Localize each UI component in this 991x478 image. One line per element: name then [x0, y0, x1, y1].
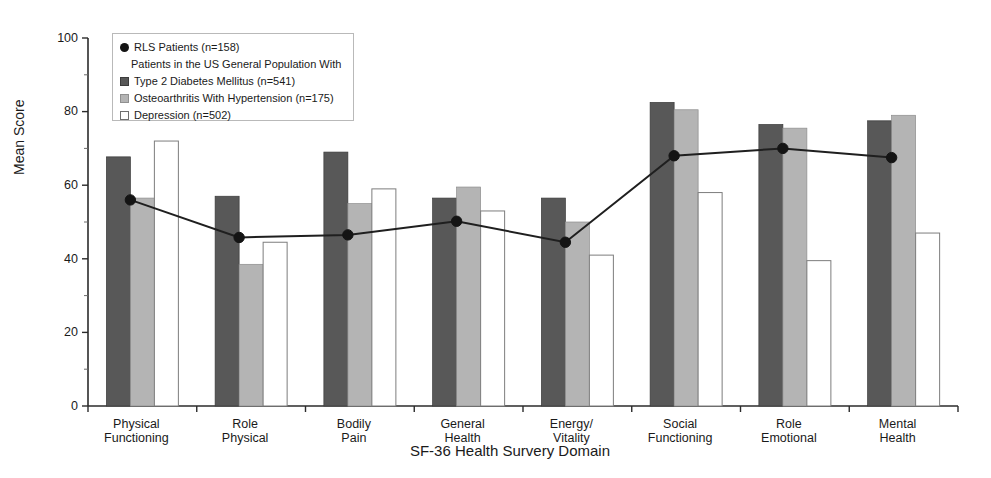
bar-osteoarthritis [565, 222, 589, 406]
bar-diabetes [650, 102, 674, 406]
legend-label: Type 2 Diabetes Mellitus (n=541) [134, 75, 295, 87]
legend-item: Type 2 Diabetes Mellitus (n=541) [120, 73, 347, 89]
legend-item: RLS Patients (n=158) [120, 39, 347, 55]
x-tick-label: Emotional [761, 431, 817, 445]
bar-diabetes [541, 198, 565, 406]
legend-label: Depression (n=502) [134, 109, 231, 121]
x-tick-label: Energy/ [550, 417, 594, 431]
bar-diabetes [433, 198, 457, 406]
bar-diabetes [106, 157, 130, 406]
legend-swatch-dot-icon [120, 43, 129, 52]
x-tick-label: Physical [113, 417, 160, 431]
bar-depression [481, 211, 505, 406]
y-axis: 020406080100 [57, 31, 88, 413]
y-tick-label: 60 [64, 178, 78, 192]
bar-depression [589, 255, 613, 406]
legend-label: Patients in the US General Population Wi… [129, 58, 341, 70]
y-tick-label: 20 [64, 325, 78, 339]
x-tick-label: Functioning [648, 431, 713, 445]
bar-diabetes [759, 124, 783, 406]
rls-data-point [451, 216, 461, 226]
x-tick-labels: PhysicalFunctioningRolePhysicalBodilyPai… [104, 417, 916, 445]
x-tick-label: Physical [222, 431, 269, 445]
rls-data-point [778, 143, 788, 153]
y-tick-label: 80 [64, 104, 78, 118]
x-tick-label: Social [663, 417, 697, 431]
y-axis-title-wrap: Mean Score [10, 100, 28, 175]
bar-depression [154, 141, 178, 406]
y-tick-label: 40 [64, 252, 78, 266]
x-tick-label: Bodily [337, 417, 372, 431]
bar-depression [698, 193, 722, 406]
bar-osteoarthritis [783, 128, 807, 406]
x-axis [88, 406, 958, 412]
x-tick-label: General [440, 417, 484, 431]
rls-data-point [125, 195, 135, 205]
rls-data-point [886, 152, 896, 162]
x-tick-label: Role [776, 417, 802, 431]
x-tick-label: Functioning [104, 431, 169, 445]
bar-osteoarthritis [130, 198, 154, 406]
legend-swatch-white-icon [120, 111, 129, 120]
bar-series-group [106, 102, 939, 406]
y-axis-title: Mean Score [11, 100, 27, 175]
rls-data-point [234, 232, 244, 242]
rls-data-point [560, 237, 570, 247]
legend-item: Patients in the US General Population Wi… [120, 56, 347, 72]
x-tick-label: Pain [341, 431, 366, 445]
x-axis-title: SF-36 Health Survery Domain [410, 442, 610, 459]
x-tick-label: Role [232, 417, 258, 431]
chart-legend: RLS Patients (n=158)Patients in the US G… [112, 33, 354, 121]
legend-item: Depression (n=502) [120, 107, 347, 123]
legend-swatch-dark-icon [120, 77, 129, 86]
bar-diabetes [324, 152, 348, 406]
y-tick-label: 0 [71, 399, 78, 413]
sf36-mean-score-chart: 020406080100 PhysicalFunctioningRolePhys… [0, 0, 991, 478]
bar-diabetes [215, 196, 239, 406]
bar-depression [807, 261, 831, 406]
legend-label: RLS Patients (n=158) [134, 41, 239, 53]
bar-depression [372, 189, 396, 406]
x-tick-label: Mental [879, 417, 917, 431]
bar-depression [263, 242, 287, 406]
legend-item: Osteoarthritis With Hypertension (n=175) [120, 90, 347, 106]
bar-depression [916, 233, 940, 406]
rls-data-point [343, 230, 353, 240]
y-tick-label: 100 [57, 31, 78, 45]
legend-swatch-gray-icon [120, 94, 129, 103]
bar-osteoarthritis [239, 264, 263, 406]
bar-diabetes [868, 121, 892, 406]
rls-data-point [669, 151, 679, 161]
legend-label: Osteoarthritis With Hypertension (n=175) [134, 92, 334, 104]
x-tick-label: Health [880, 431, 916, 445]
